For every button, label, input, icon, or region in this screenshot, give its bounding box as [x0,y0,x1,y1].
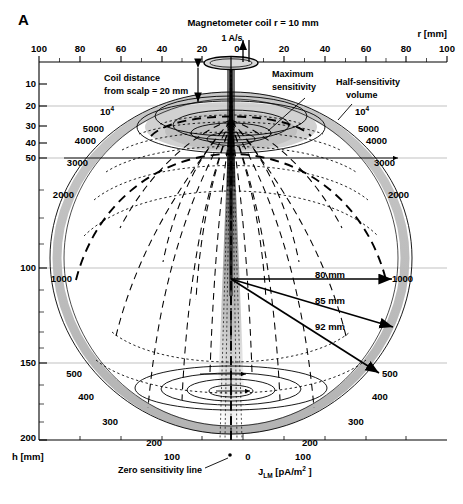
tick-x-2: 60 [116,44,127,54]
tick-x-3: 40 [157,44,168,54]
zero-sensitivity-marker [228,453,232,457]
quantity-unit: [pA/m [273,466,303,477]
contour-label-right-8: 300 [348,417,364,427]
tick-y-4: 50 [25,153,36,163]
contour-label-left-8: 300 [102,417,118,427]
contour-label-left-7: 400 [78,392,94,402]
contour-label-left-0: 104 [100,106,114,117]
zero-sensitivity-annotation: Zero sensitivity line [118,466,202,475]
half-sensitivity-annotation-line2: volume [346,91,378,100]
contour-label-right-9: 200 [302,438,318,448]
maximum-sensitivity-annotation-line1: Maximum [272,70,314,79]
coil-distance-annotation-line2: from scalp = 20 mm [104,87,188,96]
tick-y-0: 10 [25,79,36,89]
contour-label-right-6: 500 [382,369,398,379]
radius-label-92mm: 92 mm [315,322,345,332]
contour-label-right-2: 4000 [366,136,387,146]
maximum-sensitivity-annotation-line2: sensitivity [272,83,316,92]
radius-arrow-85mm [231,279,393,327]
contour-label-left-4: 2000 [53,190,74,200]
contour-label-right-0: 104 [355,106,369,117]
tick-x-7: 40 [320,44,331,54]
tick-y-7: 200 [20,433,36,443]
tick-xb-0: 100 [164,452,180,462]
radius-label-85mm: 85 mm [315,296,345,306]
half-sensitivity-annotation-line1: Half-sensitivity [336,78,400,87]
coil-distance-annotation-line1: Coil distance [104,74,160,83]
tick-y-6: 150 [20,358,36,368]
y-axis-name: h [mm] [12,452,44,462]
quantity-close: ] [306,466,312,477]
contour-label-left-2: 4000 [75,136,96,146]
quantity-label: JLM [pA/m2 ] [258,466,312,480]
tick-y-2: 30 [25,121,36,131]
contour-label-right-7: 400 [372,392,388,402]
contour-label-left-5: 1000 [51,274,72,284]
tick-y-1: 20 [25,101,36,111]
contour-label-right-4: 2000 [388,190,409,200]
tick-x-6: 20 [279,44,290,54]
radius-arrow-92mm [231,279,379,373]
tick-x-0: 100 [31,44,47,54]
drive-current-label: 1 A/s [221,34,242,43]
contour-label-left-3: 3000 [67,158,88,168]
contour-label-left-6: 500 [66,369,82,379]
contour-label-left-1: 5000 [83,124,104,134]
left-axis-ticks [39,84,47,440]
quantity-subscript: LM [263,472,272,479]
figure-title: Magnetometer coil r = 10 mm [187,18,318,28]
panel-label: A [18,12,29,27]
radius-label-80mm: 80 mm [315,270,345,280]
contour-label-left-9: 200 [146,438,162,448]
contour-label-right-1: 5000 [358,124,379,134]
tick-x-9: 80 [401,44,412,54]
tick-x-4: 20 [197,44,208,54]
tick-xb-2: 100 [295,452,311,462]
contour-label-right-5: 1000 [392,274,413,284]
tick-x-8: 60 [361,44,372,54]
x-axis-name: r [mm] [417,29,447,39]
sensitivity-contour-figure [0,0,463,504]
left-axis-minor-ticks [39,190,44,422]
tick-x-5: 0 [234,44,239,54]
contour-label-right-3: 3000 [374,158,395,168]
tick-y-5: 100 [20,263,36,273]
tick-y-3: 40 [25,138,36,148]
tick-x-10: 100 [439,44,455,54]
tick-xb-1: 0 [245,452,250,462]
tick-x-1: 80 [75,44,86,54]
